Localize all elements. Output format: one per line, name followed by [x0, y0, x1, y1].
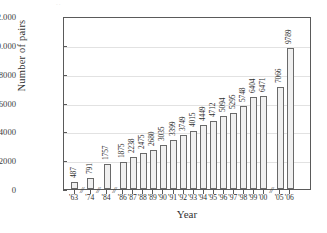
- bar-value-label: 9789: [285, 30, 294, 44]
- x-tick-label: '98: [238, 193, 247, 202]
- scan-artifact: ..: [56, 0, 62, 7]
- x-tick-mark: [253, 190, 254, 194]
- x-tick-label: '84: [102, 193, 111, 202]
- bar-value-label: 4449: [198, 106, 207, 120]
- x-tick-mark: [132, 190, 133, 194]
- x-tick-label: '06: [285, 193, 294, 202]
- x-tick-mark: [213, 190, 214, 194]
- y-tick-label: 12.000: [0, 12, 16, 22]
- x-tick-mark: [122, 190, 123, 194]
- y-tick-mark: [63, 17, 67, 18]
- bar-value-label: 1757: [101, 145, 110, 159]
- x-tick-label: '89: [148, 193, 157, 202]
- x-tick-label: '97: [228, 193, 237, 202]
- x-tick-mark: [183, 190, 184, 194]
- y-tick-label: 6000: [0, 99, 16, 109]
- x-tick-mark: [90, 190, 91, 194]
- bar-value-label: 2680: [148, 132, 157, 146]
- x-tick-label: '87: [128, 193, 137, 202]
- y-tick-mark: [63, 190, 67, 191]
- y-axis-title: Number of pairs: [16, 0, 27, 121]
- x-tick-label: '63: [69, 193, 78, 202]
- bar-value-label: 2238: [128, 138, 137, 152]
- bar-value-label: 1875: [118, 144, 127, 158]
- bar-value-label: 487: [69, 167, 78, 178]
- bar-rect: [140, 153, 147, 189]
- y-tick-label: 0: [0, 185, 16, 195]
- bar-rect: [287, 48, 294, 189]
- x-tick-label: '95: [208, 193, 217, 202]
- x-tick-label: '90: [158, 193, 167, 202]
- axis-break-mark: //: [113, 185, 116, 195]
- y-tick-mark: [63, 75, 67, 76]
- bar-value-label: 2475: [138, 135, 147, 149]
- bar-value-label: 5094: [218, 97, 227, 111]
- bar-chart: .. Number of pairs 487791175718752238247…: [0, 0, 327, 233]
- bar-value-label: 5748: [238, 88, 247, 102]
- x-tick-label: '94: [198, 193, 207, 202]
- axis-break-mark: //: [96, 185, 99, 195]
- bar-rect: [130, 157, 137, 189]
- x-tick-label: '86: [118, 193, 127, 202]
- x-tick-label: '93: [188, 193, 197, 202]
- bar-value-label: 4712: [208, 103, 217, 117]
- y-tick-mark: [63, 46, 67, 47]
- bar-rect: [200, 125, 207, 189]
- bar-rect: [250, 97, 257, 189]
- bar-rect: [210, 121, 217, 189]
- y-tick-mark: [63, 161, 67, 162]
- bar-value-label: 6404: [248, 78, 257, 92]
- bar-rect: [160, 145, 167, 189]
- x-tick-mark: [289, 190, 290, 194]
- bar-value-label: 4015: [188, 113, 197, 127]
- x-tick-mark: [263, 190, 264, 194]
- bar-value-label: 5295: [228, 94, 237, 108]
- bar-rect: [120, 162, 127, 189]
- x-axis-title: Year: [63, 208, 311, 220]
- bar-rect: [277, 87, 284, 189]
- bar-value-label: 3749: [178, 117, 187, 131]
- x-tick-mark: [243, 190, 244, 194]
- x-tick-mark: [142, 190, 143, 194]
- y-tick-label: 4000: [0, 127, 16, 137]
- x-tick-label: '91: [168, 193, 177, 202]
- x-tick-mark: [279, 190, 280, 194]
- bar-rect: [220, 116, 227, 189]
- x-tick-mark: [106, 190, 107, 194]
- x-tick-mark: [203, 190, 204, 194]
- bar-value-label: 3399: [168, 122, 177, 136]
- y-tick-label: 10.000: [0, 41, 16, 51]
- x-tick-label: '92: [178, 193, 187, 202]
- plot-area: 4877911757187522382475268030353399374940…: [63, 17, 311, 190]
- x-tick-label: '99: [248, 193, 257, 202]
- x-tick-mark: [193, 190, 194, 194]
- y-tick-mark: [63, 132, 67, 133]
- x-tick-label: '00: [258, 193, 267, 202]
- x-tick-label: '96: [218, 193, 227, 202]
- axis-break-mark: //: [80, 185, 83, 195]
- x-tick-mark: [223, 190, 224, 194]
- bar-rect: [150, 150, 157, 189]
- bar-rect: [260, 96, 267, 189]
- bar-value-label: 6471: [258, 77, 267, 91]
- bar-rect: [71, 182, 78, 189]
- bar-rect: [190, 131, 197, 189]
- x-tick-mark: [173, 190, 174, 194]
- bar-value-label: 7066: [275, 69, 284, 83]
- x-tick-mark: [152, 190, 153, 194]
- x-tick-label: '05: [275, 193, 284, 202]
- x-tick-mark: [74, 190, 75, 194]
- bar-value-label: 791: [85, 163, 94, 174]
- x-tick-label: '74: [85, 193, 94, 202]
- bar-rect: [240, 106, 247, 189]
- x-tick-mark: [162, 190, 163, 194]
- y-tick-label: 2000: [0, 156, 16, 166]
- x-tick-mark: [233, 190, 234, 194]
- y-tick-mark: [63, 104, 67, 105]
- x-tick-label: '88: [138, 193, 147, 202]
- bar-rect: [87, 178, 94, 189]
- bar-series: 4877911757187522382475268030353399374940…: [64, 18, 310, 189]
- bar-rect: [180, 135, 187, 189]
- bar-rect: [104, 164, 111, 189]
- axis-break-mark: //: [270, 185, 273, 195]
